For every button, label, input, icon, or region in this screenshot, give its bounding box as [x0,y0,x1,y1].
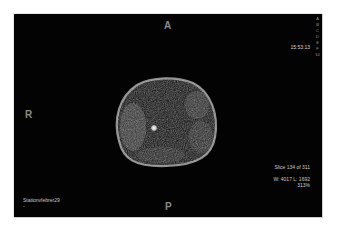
strip-item[interactable]: E [315,40,320,45]
axial-scan-image [111,75,221,169]
strip-item[interactable]: F [315,46,320,51]
strip-item[interactable]: B [315,22,320,27]
strip-item[interactable]: 10 [315,52,320,57]
zoom-level: 313% [297,182,310,188]
strip-item[interactable]: A [315,16,320,21]
orientation-right: R [25,110,32,120]
slice-info: Slice 134 of 311 [275,164,311,170]
bright-spot [150,124,158,132]
strip-item[interactable]: C [315,28,320,33]
station-subtext: - [23,203,25,209]
image-viewport[interactable]: A R P 15:53:13 Slice 134 of 311 W: 4017 … [14,14,323,218]
strip-item[interactable]: D [315,34,320,39]
acquisition-time: 15:53:13 [291,44,310,50]
station-name: Stationvfebrer29 [23,197,60,203]
orientation-posterior: P [165,202,172,212]
orientation-anterior: A [164,21,171,31]
side-tool-strip: A B C D E F 10 [315,14,321,61]
